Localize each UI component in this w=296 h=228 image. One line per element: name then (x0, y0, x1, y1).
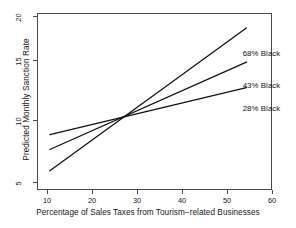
x-tick-label-50: 50 (217, 196, 237, 205)
plot-lines-svg (37, 13, 272, 190)
x-tick-mark-10 (47, 190, 48, 194)
y-tick-label-10: 10 (14, 109, 23, 133)
x-tick-label-30: 30 (127, 196, 147, 205)
x-tick-label-40: 40 (172, 196, 192, 205)
x-tick-label-60: 60 (262, 196, 282, 205)
y-tick-label-15: 15 (14, 49, 23, 73)
x-axis-title: Percentage of Sales Taxes from Tourism−r… (0, 208, 296, 217)
series-label-28-black: 28% Black (243, 104, 281, 113)
x-tick-mark-60 (272, 190, 273, 194)
x-tick-mark-50 (227, 190, 228, 194)
y-axis-title: Predicted Monthly Sanction Rate (22, 10, 31, 190)
series-line-68-black (50, 28, 247, 171)
page-bleed-artifact (18, 221, 208, 228)
x-tick-mark-20 (92, 190, 93, 194)
y-tick-label-20: 20 (14, 5, 23, 29)
y-tick-label-5: 5 (14, 171, 23, 195)
series-line-43-black (50, 62, 247, 149)
series-label-43-black: 43% Black (243, 81, 281, 90)
x-tick-label-10: 10 (37, 196, 57, 205)
series-line-28-black (50, 88, 247, 135)
figure-container: Predicted Monthly Sanction Rate 20 15 10… (0, 0, 296, 228)
x-tick-label-20: 20 (82, 196, 102, 205)
x-tick-mark-40 (182, 190, 183, 194)
x-tick-mark-30 (137, 190, 138, 194)
series-label-68-black: 68% Black (243, 49, 281, 58)
